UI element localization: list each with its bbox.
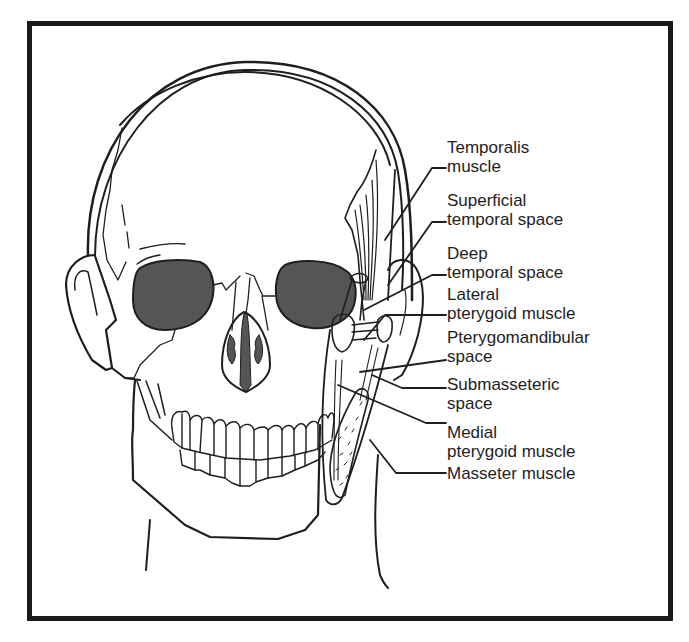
upper-teeth [172, 411, 334, 460]
leader-masseter [370, 440, 446, 473]
zygomatic-suture [125, 330, 175, 378]
nasal-turbinate-right [255, 335, 263, 364]
label-medial-pterygoid-muscle: Medial pterygoid muscle [447, 423, 576, 461]
left-orbit [133, 260, 214, 330]
right-orbit [276, 261, 356, 328]
label-line: Submasseteric [447, 375, 559, 394]
suture-dashed [122, 205, 129, 248]
label-masseter-muscle: Masseter muscle [447, 464, 575, 483]
label-line: Deep [447, 244, 563, 263]
label-line: pterygoid muscle [447, 442, 576, 461]
leader-submasseteric [372, 375, 446, 388]
mandible [132, 380, 320, 539]
condyle-right [377, 316, 392, 342]
ramus-outline [323, 330, 388, 504]
label-line: muscle [447, 157, 529, 176]
label-line: Lateral [447, 285, 576, 304]
brow-left-1 [140, 244, 185, 249]
label-pterygomandibular-space: Pterygomandibular space [447, 328, 590, 366]
label-temporalis-muscle: Temporalis muscle [447, 138, 529, 176]
label-superficial-temporal-space: Superficial temporal space [447, 191, 563, 229]
label-line: temporal space [447, 210, 563, 229]
leader-medial-pterygoid [338, 385, 446, 423]
nasal-suture [213, 273, 275, 296]
nasal-bones [232, 278, 268, 330]
label-deep-temporal-space: Deep temporal space [447, 244, 563, 282]
maxilla-left-1 [137, 381, 172, 440]
label-line: Temporalis [447, 138, 529, 157]
label-line: Masseter muscle [447, 464, 575, 483]
label-lateral-pterygoid-muscle: Lateral pterygoid muscle [447, 285, 576, 323]
label-line: space [447, 394, 559, 413]
label-line: pterygoid muscle [447, 304, 576, 323]
nasal-turbinate-left [227, 335, 235, 364]
lateral-pterygoid-muscle [352, 322, 378, 340]
skull-illustration [0, 0, 689, 642]
nasal-septum [240, 314, 251, 392]
left-ear-inner [75, 271, 97, 315]
cranium [120, 72, 390, 165]
right-ear-inner [400, 290, 406, 335]
left-cheek [95, 256, 140, 380]
label-line: Superficial [447, 191, 563, 210]
label-line: space [447, 347, 590, 366]
head-outline-inner [95, 70, 403, 290]
left-ear [66, 255, 112, 370]
neck-left [146, 520, 150, 570]
label-submasseteric-space: Submasseteric space [447, 375, 559, 413]
label-line: Medial [447, 423, 576, 442]
leader-pterygomandibular [360, 360, 446, 372]
label-line: temporal space [447, 263, 563, 282]
label-line: Pterygomandibular [447, 328, 590, 347]
lower-teeth [180, 450, 325, 486]
neck-right [375, 455, 388, 588]
